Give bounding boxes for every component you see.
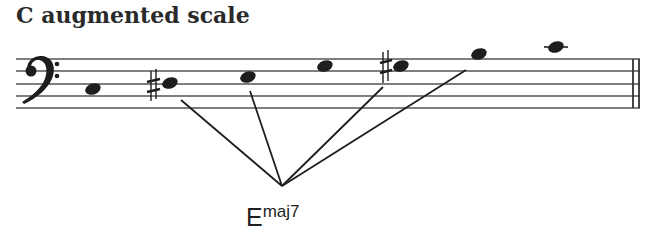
note-7-c-ledger [544, 39, 568, 55]
chord-symbol: Emaj7 [246, 203, 300, 232]
music-staff [0, 0, 653, 246]
sharp-icon [380, 50, 392, 83]
note-5-g-sharp [380, 50, 410, 83]
chord-connector-lines [181, 70, 466, 186]
chord-quality: maj7 [263, 202, 300, 221]
bass-clef-icon [22, 56, 59, 104]
chord-root: E [246, 203, 263, 231]
